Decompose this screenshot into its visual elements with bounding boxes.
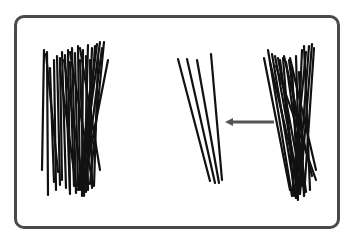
removed-sticks-group: [178, 54, 222, 183]
left-stick-pile: [42, 42, 108, 196]
sticks-diagram: [0, 0, 352, 242]
left-arrow-icon: [225, 118, 274, 126]
stick: [178, 59, 210, 181]
stick: [42, 50, 44, 170]
stick: [211, 54, 222, 180]
